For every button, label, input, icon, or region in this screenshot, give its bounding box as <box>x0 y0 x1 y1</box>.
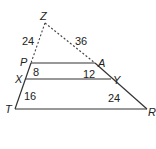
length-label-px: 8 <box>33 66 39 78</box>
length-label-ay: 12 <box>83 68 95 80</box>
segment-pt <box>15 63 31 109</box>
vertex-label-x: X <box>14 73 23 85</box>
vertex-label-p: P <box>20 56 28 68</box>
length-label-yr: 24 <box>108 92 120 104</box>
vertex-label-y: Y <box>113 74 121 86</box>
triangle-diagram: Z P A X Y T R 24 36 8 12 16 24 <box>0 0 156 149</box>
vertex-label-r: R <box>148 106 156 118</box>
segment-ar <box>95 63 147 109</box>
vertex-label-t: T <box>5 103 13 115</box>
length-label-xt: 16 <box>24 90 36 102</box>
vertex-label-z: Z <box>39 10 48 22</box>
length-label-za: 36 <box>75 35 87 47</box>
vertex-label-a: A <box>97 57 105 69</box>
segment-za <box>45 23 95 63</box>
length-label-zp: 24 <box>22 35 34 47</box>
